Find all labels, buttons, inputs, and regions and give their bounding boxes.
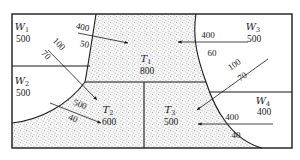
region-value: 600 bbox=[102, 117, 117, 127]
region-value: 800 bbox=[140, 66, 155, 76]
flow-top-value: 400 bbox=[225, 112, 239, 122]
flow-diagram: W1500W2500W3500W4400T1800T2600T3500 4005… bbox=[0, 0, 300, 160]
flow-top-value: 400 bbox=[201, 30, 215, 40]
flow-bottom-value: 60 bbox=[208, 48, 218, 58]
flow-bottom-value: 40 bbox=[232, 130, 242, 140]
region-subscript: 3 bbox=[256, 26, 260, 34]
region-subscript: 2 bbox=[109, 109, 113, 117]
region-value: 500 bbox=[247, 34, 262, 44]
region-subscript: 1 bbox=[25, 26, 29, 34]
region-value: 500 bbox=[164, 117, 179, 127]
region-subscript: 1 bbox=[147, 58, 151, 66]
region-subscript: 3 bbox=[171, 109, 175, 117]
region-value: 400 bbox=[257, 107, 272, 117]
region-value: 500 bbox=[16, 34, 31, 44]
region-value: 500 bbox=[16, 88, 31, 98]
region-subscript: 2 bbox=[25, 80, 29, 88]
